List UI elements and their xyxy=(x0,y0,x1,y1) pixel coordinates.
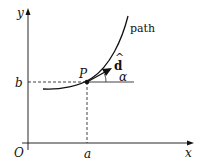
diagram-canvas: y x O b a P path d ^ α xyxy=(0,0,201,166)
x-axis-label: x xyxy=(185,146,192,160)
a-label: a xyxy=(84,147,91,161)
y-axis xyxy=(26,8,31,150)
angle-alpha-label: α xyxy=(119,70,127,84)
vector-hat: ^ xyxy=(115,51,124,64)
b-label: b xyxy=(15,76,23,90)
origin-label: O xyxy=(14,146,24,160)
path-label: path xyxy=(130,22,155,35)
x-axis xyxy=(22,141,194,146)
direction-vector xyxy=(87,68,112,82)
point-p-label: P xyxy=(78,67,88,81)
y-axis-label: y xyxy=(16,6,24,20)
